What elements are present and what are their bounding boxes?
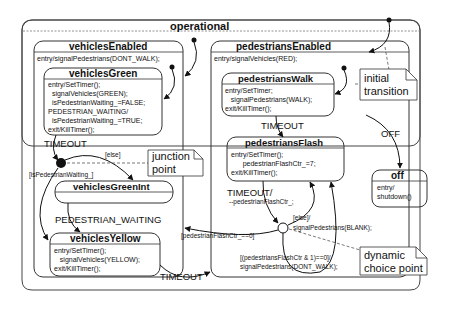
label-timeout-walk: TIMEOUT (261, 121, 304, 131)
state-title-vehiclesEnabled: vehiclesEnabled (69, 42, 147, 52)
label-flash-odd-guard: [(pedestriansFlashCtr & 1)==0]/ (240, 255, 331, 262)
note-text-dynamic-choice-point: dynamic choice point (364, 249, 423, 275)
state-title-pedestriansEnabled: pedestriansEnabled (236, 42, 331, 52)
label-else-junction: [else] (105, 152, 121, 159)
label-timeout-green: TIMEOUT (44, 139, 87, 149)
label-flash-zero-guard: [pedestrianFlashCtr_==0] (181, 233, 254, 240)
state-title-operational: operational (170, 21, 229, 32)
state-title-vehiclesGreen: vehiclesGreen (69, 69, 137, 79)
label-timeout-yellow: TIMEOUT (160, 272, 203, 282)
state-title-off: off (391, 171, 404, 181)
note-connector (385, 47, 389, 70)
label-else-choice-action: signalPedestrians(BLANK); (293, 225, 372, 232)
note-text-junction-point: junction point (152, 150, 190, 176)
state-title-pedestriansWalk: pedestriansWalk (238, 74, 313, 84)
state-actions-vehiclesGreen: entry/SetTimer(); signalVehicles(GREEN);… (48, 80, 145, 134)
state-title-vehiclesYellow: vehiclesYellow (70, 234, 141, 244)
label-timeout-flash: TIMEOUT/ (227, 188, 272, 198)
label-off: OFF (381, 129, 400, 139)
label-flash-odd-action: signalPedestrians(DONT_WALK); (240, 264, 338, 271)
label-else-choice: [else]/ (293, 215, 310, 222)
state-actions-off: entry/ shutdown() (377, 183, 412, 201)
label-pedestrian-waiting-event: PEDESTRIAN_WAITING (55, 215, 161, 225)
state-title-pedestriansFlash: pedestriansFlash (245, 138, 323, 148)
state-actions-vehiclesEnabled: entry/signalPedestrians(DONT_WALK); (37, 54, 160, 63)
label-timeout-flash-action: --pedestrianFlashCtr_; (229, 199, 294, 206)
state-actions-pedestriansWalk: entry/SetTimer; signalPedestrians(WALK);… (225, 86, 312, 113)
note-text-initial-transition: initial transition (364, 72, 409, 98)
state-actions-pedestriansFlash: entry/SetTimer(); pedestrianFlashCtr_=7;… (231, 150, 316, 177)
label-pedestrian-waiting-guard: [isPedestrianWaiting_] (29, 172, 93, 179)
state-title-vehiclesGreenInt: vehiclesGreenInt (73, 182, 150, 192)
state-actions-pedestriansEnabled: entry/signalVehicles(RED); (214, 54, 297, 63)
transition-off (366, 115, 400, 168)
state-actions-vehiclesYellow: entry/SetTimer(); signalVehicles(YELLOW)… (54, 246, 140, 273)
